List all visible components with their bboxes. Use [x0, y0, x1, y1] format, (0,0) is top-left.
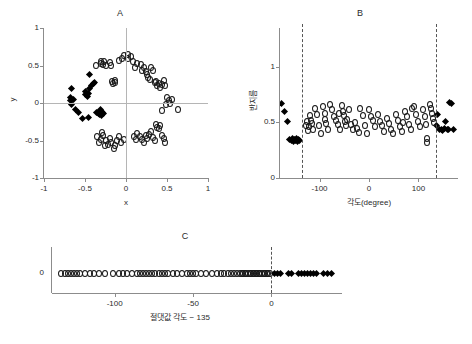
- panel-c: C 0 절댓값 각도 − 135 -100-500: [0, 225, 400, 344]
- data-point-open-circle: [203, 270, 209, 277]
- panel-a-x-tick-label: -0.5: [69, 184, 101, 193]
- panel-b-y-tick-label: 0.5: [248, 117, 275, 126]
- data-point-open-circle: [408, 126, 414, 133]
- panel-c-x-axis: [52, 293, 342, 294]
- panel-a-y-tick: [40, 141, 44, 142]
- panel-b-x-tick: [320, 178, 321, 182]
- panel-b-x-tick-label: 0: [351, 184, 387, 193]
- data-point-open-circle: [131, 133, 137, 140]
- panel-c-x-tick: [271, 293, 272, 297]
- panel-b-x-tick: [418, 178, 419, 182]
- data-point-filled-diamond: [91, 78, 98, 85]
- panel-c-x-tick-label: 0: [253, 299, 289, 308]
- panel-b-y-tick-label: 0: [248, 173, 275, 182]
- panel-b-y-tick: [276, 178, 280, 179]
- panel-c-reference-line: [271, 247, 272, 293]
- data-point-open-circle: [310, 126, 316, 133]
- panel-c-x-tick-label: -100: [97, 299, 133, 308]
- panel-c-title: C: [150, 231, 220, 241]
- data-point-open-circle: [150, 67, 156, 74]
- data-point-open-circle: [420, 106, 426, 113]
- data-point-filled-diamond: [85, 114, 92, 121]
- panel-a-x-tick: [126, 178, 127, 182]
- panel-a-zero-horizontal: [44, 103, 208, 104]
- data-point-open-circle: [356, 129, 362, 136]
- data-point-filled-diamond: [86, 71, 93, 78]
- data-point-open-circle: [157, 122, 163, 129]
- data-point-filled-diamond: [284, 118, 291, 125]
- panel-a-x-tick-label: 0.5: [151, 184, 183, 193]
- data-point-filled-diamond: [450, 126, 457, 133]
- data-point-open-circle: [409, 105, 415, 112]
- data-point-open-circle: [111, 145, 117, 152]
- data-point-open-circle: [169, 96, 175, 103]
- panel-a-y-tick-label: -1: [12, 173, 39, 182]
- panel-a-y-tick-label: 0.5: [12, 61, 39, 70]
- data-point-open-circle: [424, 139, 430, 146]
- data-point-open-circle: [400, 119, 406, 126]
- data-point-open-circle: [316, 122, 322, 129]
- data-point-filled-diamond: [280, 100, 286, 107]
- data-point-open-circle: [346, 106, 352, 113]
- panel-a: A x y -1-0.500.51-1-0.500.51: [0, 0, 240, 220]
- panel-b-reference-line: [436, 24, 437, 178]
- data-point-open-circle: [162, 139, 168, 146]
- data-point-open-circle: [366, 106, 372, 113]
- panel-b-x-tick: [369, 178, 370, 182]
- panel-a-y-tick-label: -0.5: [12, 136, 39, 145]
- data-point-open-circle: [175, 106, 181, 113]
- data-point-open-circle: [112, 79, 118, 86]
- data-point-open-circle: [102, 142, 108, 149]
- panel-b-y-axis: [279, 28, 280, 178]
- panel-a-title: A: [85, 8, 155, 18]
- data-point-open-circle: [360, 112, 366, 119]
- data-point-open-circle: [314, 111, 320, 118]
- panel-a-y-tick: [40, 66, 44, 67]
- panel-c-x-tick-label: -50: [175, 299, 211, 308]
- data-point-open-circle: [362, 122, 368, 129]
- panel-b-x-axis-label: 각도(degree): [319, 196, 419, 207]
- panel-c-x-axis-label: 절댓값 각도 − 135: [120, 311, 240, 322]
- panel-a-x-tick: [44, 178, 45, 182]
- data-point-open-circle: [318, 130, 324, 137]
- data-point-open-circle: [159, 107, 165, 114]
- data-point-open-circle: [108, 62, 114, 69]
- panel-c-x-tick: [115, 293, 116, 297]
- data-point-open-circle: [390, 130, 396, 137]
- data-point-open-circle: [96, 270, 102, 277]
- panel-b-y-tick: [276, 122, 280, 123]
- panel-b: B 각도(degree) 반지름 00.51-1000100: [240, 0, 472, 220]
- panel-a-x-axis-label: x: [96, 198, 156, 207]
- panel-a-x-tick: [167, 178, 168, 182]
- data-point-open-circle: [325, 126, 331, 133]
- panel-a-y-tick: [40, 103, 44, 104]
- panel-c-y-axis: [51, 247, 52, 293]
- data-point-open-circle: [329, 106, 335, 113]
- data-point-filled-diamond: [281, 108, 288, 115]
- data-point-open-circle: [423, 121, 429, 128]
- panel-b-y-tick: [276, 67, 280, 68]
- panel-b-x-tick-label: 100: [400, 184, 436, 193]
- data-point-filled-diamond: [277, 269, 284, 276]
- panel-b-y-axis-label: 반지름: [247, 81, 258, 121]
- panel-c-y-axis-label: 0: [28, 268, 44, 277]
- data-point-open-circle: [364, 130, 370, 137]
- panel-a-y-tick-label: 0: [12, 98, 39, 107]
- data-point-open-circle: [372, 123, 378, 130]
- panel-a-x-tick: [85, 178, 86, 182]
- panel-a-x-tick: [208, 178, 209, 182]
- data-point-open-circle: [110, 270, 116, 277]
- panel-b-plot-area: [280, 28, 458, 178]
- data-point-filled-diamond: [442, 118, 449, 125]
- panel-a-y-tick-label: 1: [12, 23, 39, 32]
- panel-a-x-tick-label: 0: [110, 184, 142, 193]
- data-point-open-circle: [399, 128, 405, 135]
- data-point-open-circle: [99, 129, 105, 136]
- panel-c-plot-area: [52, 253, 342, 293]
- panel-b-x-tick-label: -100: [302, 184, 338, 193]
- panel-b-title: B: [325, 8, 395, 18]
- data-point-open-circle: [102, 270, 108, 277]
- panel-b-reference-line: [302, 24, 303, 178]
- data-point-open-circle: [381, 128, 387, 135]
- panel-b-y-tick-label: 1: [248, 62, 275, 71]
